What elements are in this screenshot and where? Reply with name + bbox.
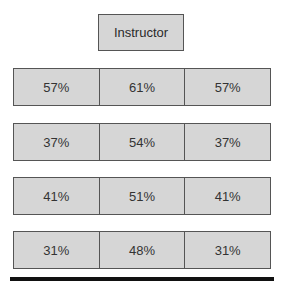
row-4-cell-1: 31% (14, 232, 99, 268)
instructor-label: Instructor (114, 25, 168, 40)
bottom-rule (10, 277, 274, 281)
row-3: 41% 51% 41% (13, 177, 271, 215)
row-3-cell-2: 51% (99, 178, 185, 214)
row-2-cell-1: 37% (14, 124, 99, 160)
row-1-cell-2: 61% (99, 69, 185, 105)
row-1-cell-3: 57% (184, 69, 270, 105)
row-2-cell-2: 54% (99, 124, 185, 160)
row-2-cell-3: 37% (184, 124, 270, 160)
row-4-cell-2: 48% (99, 232, 185, 268)
row-4: 31% 48% 31% (13, 231, 271, 269)
row-3-cell-1: 41% (14, 178, 99, 214)
row-1-cell-1: 57% (14, 69, 99, 105)
row-3-cell-3: 41% (184, 178, 270, 214)
instructor-header-box: Instructor (98, 14, 184, 51)
row-2: 37% 54% 37% (13, 123, 271, 161)
row-4-cell-3: 31% (184, 232, 270, 268)
row-1: 57% 61% 57% (13, 68, 271, 106)
